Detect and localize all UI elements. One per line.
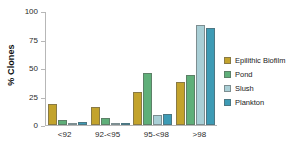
legend-swatch-icon xyxy=(224,57,231,64)
legend-item-label: Plankton xyxy=(235,98,264,107)
y-axis-tick-mark xyxy=(41,126,45,127)
bar xyxy=(68,123,77,125)
bar xyxy=(143,73,152,125)
bar xyxy=(48,104,57,125)
bar xyxy=(186,75,195,125)
y-axis-tick: 100 xyxy=(15,12,45,13)
y-axis-tick-label: 25 xyxy=(29,92,38,103)
bar xyxy=(196,25,205,125)
legend-item[interactable]: Pond xyxy=(224,70,285,79)
bar xyxy=(121,123,130,125)
bar xyxy=(58,120,67,125)
x-axis-line xyxy=(45,125,217,126)
y-axis-tick-label: 75 xyxy=(29,35,38,46)
bar xyxy=(78,122,87,125)
bars-layer xyxy=(46,12,217,125)
legend-item-label: Slush xyxy=(235,84,254,93)
y-axis-tick-mark xyxy=(41,69,45,70)
x-axis-label: <92 xyxy=(58,130,72,139)
plot-area: 1007550250 xyxy=(45,12,217,126)
y-axis-tick: 0 xyxy=(15,126,45,127)
bar xyxy=(111,123,120,125)
x-axis-label: 92-<95 xyxy=(95,130,120,139)
x-axis-labels: <9292-<9595-<98>98 xyxy=(46,130,218,139)
bar xyxy=(91,107,100,125)
bar xyxy=(163,114,172,125)
bar xyxy=(153,115,162,125)
x-axis-label: 95-<98 xyxy=(144,130,169,139)
bar xyxy=(206,28,215,125)
legend-item-label: Pond xyxy=(235,70,253,79)
bar-group xyxy=(176,12,215,125)
legend-item-label: Epilithic Biofilm xyxy=(235,56,285,65)
legend-item[interactable]: Slush xyxy=(224,84,285,93)
chart-legend: Epilithic BiofilmPondSlushPlankton xyxy=(224,56,285,107)
bar-group xyxy=(91,12,130,125)
y-axis-title: % Clones xyxy=(2,0,20,130)
bar xyxy=(101,118,110,125)
y-axis-tick-label: 0 xyxy=(34,120,38,131)
legend-swatch-icon xyxy=(224,99,231,106)
legend-item[interactable]: Plankton xyxy=(224,98,285,107)
legend-swatch-icon xyxy=(224,71,231,78)
y-axis-tick: 50 xyxy=(15,69,45,70)
bar-group xyxy=(133,12,172,125)
bar-chart: % Clones 1007550250 <9292-<9595-<98>98 E… xyxy=(0,0,306,148)
y-axis-title-label: % Clones xyxy=(6,44,16,85)
x-axis-label: >98 xyxy=(193,130,207,139)
y-axis-tick-label: 50 xyxy=(29,63,38,74)
y-axis-tick-mark xyxy=(41,12,45,13)
legend-swatch-icon xyxy=(224,85,231,92)
bar xyxy=(133,92,142,125)
bar-group xyxy=(48,12,87,125)
y-axis-tick-mark xyxy=(41,98,45,99)
y-axis-tick-mark xyxy=(41,41,45,42)
bar xyxy=(176,82,185,125)
y-axis-tick-label: 100 xyxy=(25,6,38,17)
y-axis-tick: 25 xyxy=(15,98,45,99)
legend-item[interactable]: Epilithic Biofilm xyxy=(224,56,285,65)
y-axis-tick: 75 xyxy=(15,41,45,42)
